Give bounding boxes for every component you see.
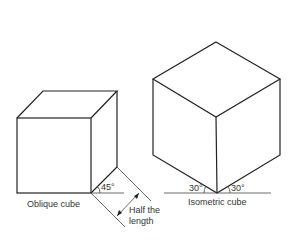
oblique-front-face xyxy=(17,118,91,193)
isometric-front-edge xyxy=(216,117,217,193)
isometric-cube xyxy=(153,42,280,193)
oblique-angle-label: 45° xyxy=(101,182,115,192)
oblique-top-face xyxy=(17,91,117,118)
half-length-label-1: Half the xyxy=(129,205,160,215)
isometric-top-face xyxy=(153,42,280,117)
oblique-side-face xyxy=(91,91,117,193)
oblique-cube xyxy=(17,91,117,193)
isometric-left-angle-label: 30° xyxy=(189,183,203,193)
isometric-caption: Isometric cube xyxy=(188,197,247,207)
oblique-caption: Oblique cube xyxy=(27,199,80,209)
half-length-label-2: length xyxy=(129,216,154,226)
isometric-right-angle-label: 30° xyxy=(231,183,245,193)
